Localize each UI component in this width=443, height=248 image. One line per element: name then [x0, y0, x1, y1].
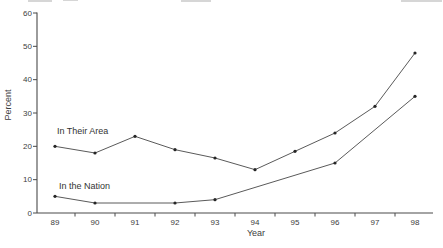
y-tick-label: 10: [23, 175, 32, 184]
y-tick-label: 0: [28, 209, 33, 218]
data-point-marker: [93, 201, 96, 204]
x-tick-label: 97: [371, 218, 380, 227]
x-tick-label: 89: [51, 218, 60, 227]
data-point-marker: [173, 148, 176, 151]
data-point-marker: [213, 198, 216, 201]
x-tick-label: 95: [291, 218, 300, 227]
data-point-marker: [413, 51, 416, 54]
x-tick-label: 93: [211, 218, 220, 227]
data-point-marker: [333, 131, 336, 134]
y-tick-label: 40: [23, 75, 32, 84]
x-tick-label: 96: [331, 218, 340, 227]
data-point-marker: [133, 135, 136, 138]
data-point-marker: [53, 195, 56, 198]
chart-plot-area: 010203040506089909192939495969798: [0, 0, 443, 248]
y-tick-label: 20: [23, 142, 32, 151]
data-point-marker: [53, 145, 56, 148]
data-point-marker: [253, 168, 256, 171]
x-tick-label: 92: [171, 218, 180, 227]
crime-perception-line-chart: 010203040506089909192939495969798 Percen…: [0, 0, 443, 248]
y-tick-label: 50: [23, 42, 32, 51]
series-label-in-the-nation: In the Nation: [59, 181, 110, 191]
y-axis-title: Percent: [2, 75, 14, 135]
data-point-marker: [213, 156, 216, 159]
data-point-marker: [173, 201, 176, 204]
y-tick-label: 60: [23, 9, 32, 18]
data-point-marker: [93, 151, 96, 154]
x-tick-label: 91: [131, 218, 140, 227]
x-tick-label: 98: [411, 218, 420, 227]
data-point-marker: [373, 105, 376, 108]
x-axis-title: Year: [234, 228, 278, 238]
data-point-marker: [413, 95, 416, 98]
x-tick-label: 94: [251, 218, 260, 227]
y-tick-label: 30: [23, 109, 32, 118]
series-line-in-their-area: [55, 53, 415, 170]
data-point-marker: [333, 161, 336, 164]
series-label-in-their-area: In Their Area: [57, 126, 108, 136]
data-point-marker: [293, 150, 296, 153]
x-tick-label: 90: [91, 218, 100, 227]
